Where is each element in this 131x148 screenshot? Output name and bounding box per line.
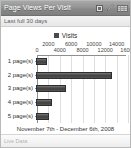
bar-row: 4 page(s) <box>1 97 130 108</box>
bar-visits[interactable] <box>36 99 52 106</box>
bar-category-label: 1 page(s) <box>1 58 35 65</box>
bar-visits[interactable] <box>36 85 66 92</box>
bar-visits[interactable] <box>36 113 49 120</box>
x-axis-tick-label: 12000 <box>98 47 113 53</box>
bar-category-label: 5 page(s) <box>1 113 35 120</box>
bar-category-label: 2 page(s) <box>1 72 35 79</box>
titlebar-icon-group <box>96 4 128 12</box>
pencil-edit-icon[interactable] <box>106 4 114 12</box>
x-axis-tick-label: 4000 <box>54 47 66 53</box>
legend-swatch-visits <box>54 33 59 38</box>
x-axis-tick-label: 16000 <box>120 47 131 53</box>
plot-region: 1 page(s)2 page(s)3 page(s)4 page(s)5 pa… <box>1 55 130 123</box>
live-data-link[interactable]: Live Data <box>4 138 27 145</box>
bar-row: 5 page(s) <box>1 111 130 122</box>
x-axis-tick-label: 0 <box>35 47 38 53</box>
bar-track <box>35 97 130 108</box>
bar-category-label: 4 page(s) <box>1 99 35 106</box>
x-axis-tick-labels: 200060001000014000 0400080001200016000 <box>1 41 130 55</box>
widget-subtitle-bar: Last full 30 days <box>1 16 130 27</box>
chart-legend: Visits <box>1 29 130 41</box>
bar-track <box>35 83 130 94</box>
date-range-caption: November 7th - December 6th, 2008 <box>1 125 130 133</box>
window-icon[interactable] <box>96 5 103 12</box>
page-views-per-visit-widget: Page Views Per Visit Last full 30 days V… <box>0 0 131 148</box>
legend-label-visits: Visits <box>62 32 77 39</box>
widget-title: Page Views Per Visit <box>4 4 96 12</box>
bar-row: 3 page(s) <box>1 83 130 94</box>
x-axis-tick-row-bottom: 0400080001200016000 <box>1 47 130 54</box>
bar-visits[interactable] <box>36 58 47 65</box>
widget-titlebar: Page Views Per Visit <box>1 1 130 16</box>
x-axis-tick-label: 8000 <box>76 47 88 53</box>
bar-category-label: 3 page(s) <box>1 85 35 92</box>
bar-visits[interactable] <box>36 72 112 79</box>
chart-area: Visits 200060001000014000 04000800012000… <box>1 27 130 134</box>
bar-track <box>35 70 130 81</box>
bar-track <box>35 56 130 67</box>
grid-view-icon[interactable] <box>117 5 128 12</box>
bar-rows: 1 page(s)2 page(s)3 page(s)4 page(s)5 pa… <box>1 55 130 123</box>
bar-track <box>35 111 130 122</box>
widget-subtitle: Last full 30 days <box>4 18 47 25</box>
bar-row: 2 page(s) <box>1 70 130 81</box>
widget-footer: Live Data <box>1 134 130 147</box>
bar-row: 1 page(s) <box>1 56 130 67</box>
